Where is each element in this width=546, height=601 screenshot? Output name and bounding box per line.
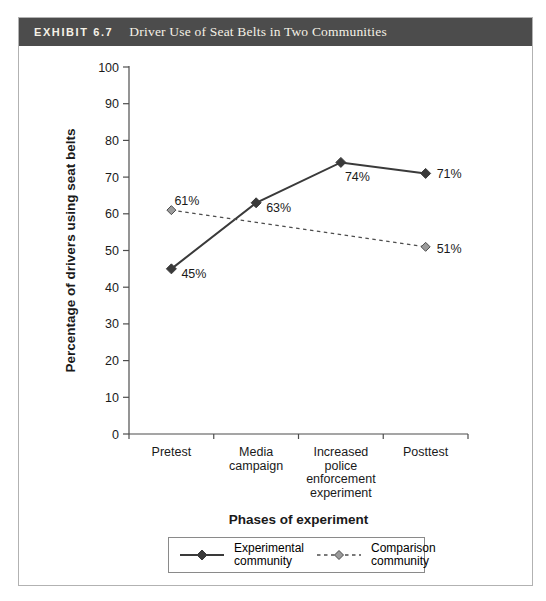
data-point-marker xyxy=(421,168,431,178)
experimental-line xyxy=(171,162,425,268)
y-tick-label: 70 xyxy=(105,171,119,185)
exhibit-panel: EXHIBIT 6.7 Driver Use of Seat Belts in … xyxy=(18,17,533,586)
y-tick-label: 50 xyxy=(105,244,119,258)
legend-entry-comparison: Comparisoncommunity xyxy=(316,542,443,568)
x-category-label: campaign xyxy=(229,459,283,473)
y-tick-label: 100 xyxy=(98,61,119,75)
y-tick-label: 0 xyxy=(112,428,119,442)
y-tick-label: 10 xyxy=(105,391,119,405)
axes xyxy=(129,66,468,434)
exhibit-title: Driver Use of Seat Belts in Two Communit… xyxy=(129,24,387,40)
x-category-label: Posttest xyxy=(403,445,449,459)
data-point-label: 63% xyxy=(266,201,291,215)
data-point-label: 45% xyxy=(181,267,206,281)
series-experimental: 45%63%74%71% xyxy=(166,157,461,280)
y-tick-label: 20 xyxy=(105,354,119,368)
x-category-label: experiment xyxy=(310,486,372,500)
exhibit-number: EXHIBIT 6.7 xyxy=(34,26,113,38)
legend-label: Comparisoncommunity xyxy=(371,542,443,568)
data-point-marker xyxy=(421,242,430,251)
y-tick-label: 30 xyxy=(105,317,119,331)
x-axis-title: Phases of experiment xyxy=(229,512,369,527)
y-tick-label: 90 xyxy=(105,97,119,111)
seat-belt-usage-line-chart: 0102030405060708090100PretestMediacampai… xyxy=(19,46,532,536)
data-point-marker xyxy=(336,157,346,167)
solid-line-marker-icon xyxy=(179,548,225,562)
y-tick-label: 40 xyxy=(105,281,119,295)
comparison-line xyxy=(171,210,425,247)
dashed-line-marker-icon xyxy=(316,548,362,562)
data-point-label: 71% xyxy=(437,167,462,181)
data-point-label: 61% xyxy=(174,194,199,208)
x-category-label: Pretest xyxy=(152,445,192,459)
y-axis-title: Percentage of drivers using seat belts xyxy=(63,129,78,373)
y-tick-label: 80 xyxy=(105,134,119,148)
x-category-label: Media xyxy=(239,445,273,459)
exhibit-header: EXHIBIT 6.7 Driver Use of Seat Belts in … xyxy=(19,18,532,46)
data-point-label: 51% xyxy=(437,242,462,256)
chart-legend: ExperimentalcommunityComparisoncommunity xyxy=(168,537,425,573)
y-tick-label: 60 xyxy=(105,207,119,221)
legend-entry-experimental: Experimentalcommunity xyxy=(179,542,306,568)
x-category-label: enforcement xyxy=(306,472,376,486)
series-comparison: 61%51% xyxy=(167,194,462,256)
x-category-label: police xyxy=(325,459,358,473)
x-category-label: Increased xyxy=(313,445,368,459)
data-point-label: 74% xyxy=(345,170,370,184)
legend-label: Experimentalcommunity xyxy=(234,542,306,568)
